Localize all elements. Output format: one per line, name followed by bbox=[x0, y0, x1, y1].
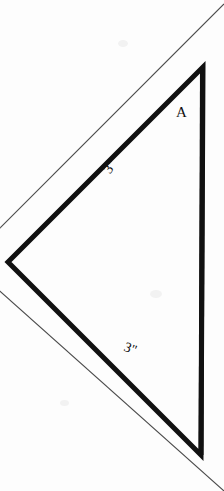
paper-background bbox=[0, 0, 224, 491]
triangle-figure-canvas: A 3" 3" bbox=[0, 0, 224, 491]
triangle-diagram-svg bbox=[0, 0, 224, 491]
vertex-label-a: A bbox=[176, 105, 187, 120]
triangle-right-edge bbox=[201, 67, 203, 455]
